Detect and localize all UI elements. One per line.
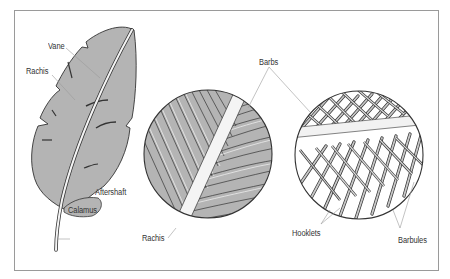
label-barbs: Barbs [259, 57, 278, 67]
label-vane: Vane [48, 41, 65, 51]
barbules-magnified-view [290, 88, 430, 228]
barbs-magnified-view [140, 88, 280, 228]
label-rachis-feather: Rachis [26, 66, 48, 76]
feather-diagram-art [0, 0, 450, 279]
label-hooklets: Hooklets [292, 228, 320, 238]
label-aftershaft: Aftershaft [95, 187, 126, 197]
label-calamus: Calamus [68, 205, 97, 215]
feather-illustration [32, 27, 137, 250]
label-barbules: Barbules [398, 235, 427, 245]
label-rachis-detail: Rachis [142, 233, 164, 243]
